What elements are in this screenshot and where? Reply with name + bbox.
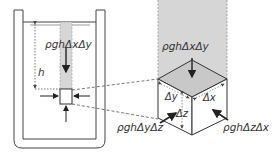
container: [14, 10, 105, 148]
side-force-label-left: ρghΔyΔz: [117, 121, 164, 133]
small-fluid-element: [60, 89, 72, 104]
hydrostatic-diagram: ρghΔxΔy h ρghΔxΔy Δy Δx Δz ρghΔyΔz ρghΔz…: [0, 0, 277, 154]
top-force-label-left: ρghΔxΔy: [45, 38, 93, 50]
depth-label: h: [38, 66, 45, 78]
top-force-label-right: ρghΔxΔy: [162, 40, 210, 52]
zoom-connectors: [72, 79, 158, 119]
dim-x-label: Δx: [202, 92, 216, 103]
side-force-label-right: ρghΔzΔx: [223, 121, 270, 133]
dim-y-label: Δy: [164, 91, 179, 102]
depth-dimension: [35, 24, 60, 89]
water-surface: [23, 22, 96, 25]
dim-z-label: Δz: [175, 108, 189, 119]
